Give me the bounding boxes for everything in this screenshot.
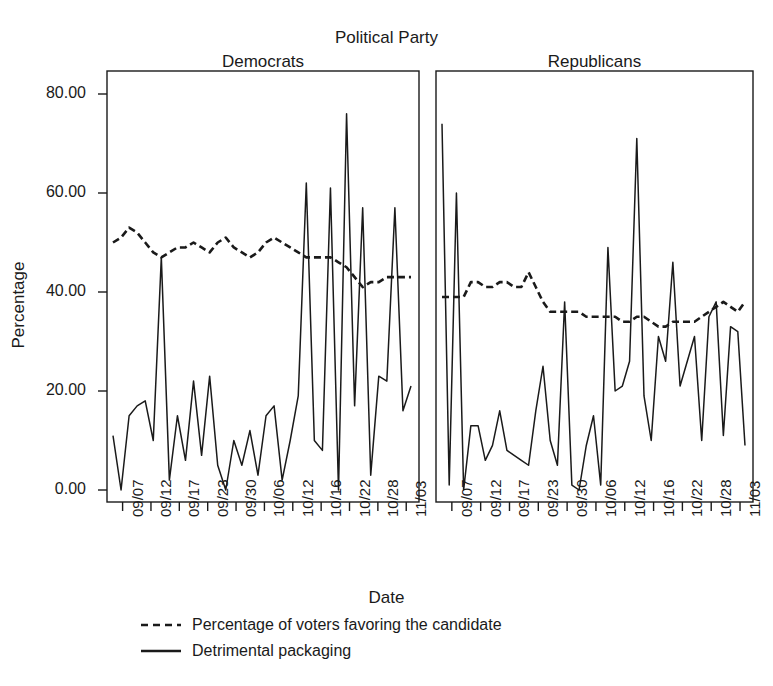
legend-label-solid: Detrimental packaging [192,643,351,659]
solid-line-icon [140,644,182,658]
chart-figure: Political Party Democrats Republicans Pe… [0,0,773,686]
legend-label-dashed: Percentage of voters favoring the candid… [192,617,502,633]
series-line-voters-favoring [113,228,411,287]
panel-frame-republicans [436,71,753,502]
dashed-line-icon [140,618,182,632]
legend-item-dashed: Percentage of voters favoring the candid… [140,612,502,638]
plot-area [0,0,773,686]
series-line-detrimental-packaging [113,114,411,490]
series-line-voters-favoring [442,272,745,326]
chart-legend: Percentage of voters favoring the candid… [140,612,502,664]
series-line-detrimental-packaging [442,124,745,490]
legend-item-solid: Detrimental packaging [140,638,502,664]
